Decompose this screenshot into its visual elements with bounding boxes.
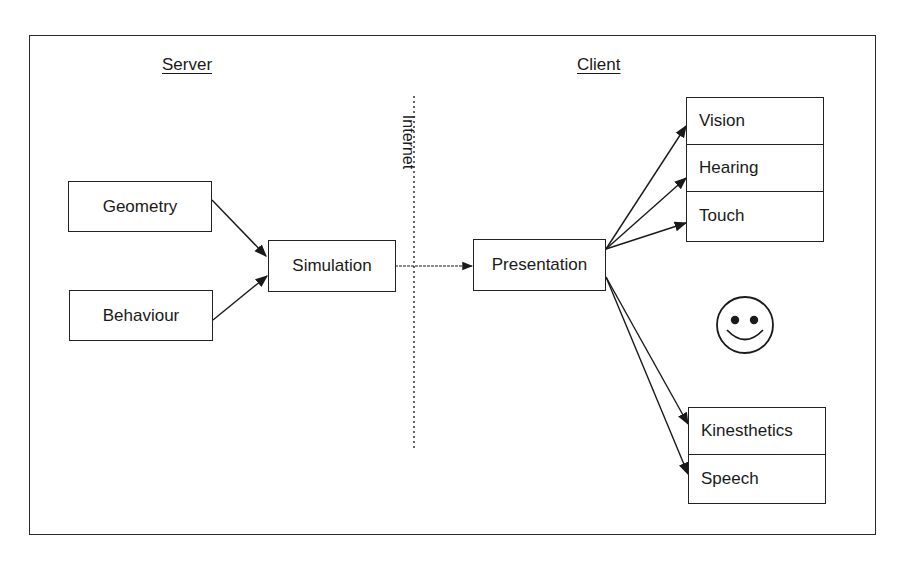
edge-behaviour-simulation	[213, 276, 267, 320]
node-simulation: Simulation	[268, 240, 396, 292]
edge-presentation-kinesthetics	[606, 277, 688, 424]
node-speech: Speech	[689, 455, 825, 502]
sense-input-group: Kinesthetics Speech	[688, 407, 826, 504]
edge-geometry-simulation	[212, 200, 266, 256]
edge-presentation-vision	[606, 126, 686, 249]
node-presentation: Presentation	[473, 239, 606, 291]
sense-output-group: Vision Hearing Touch	[686, 97, 824, 242]
node-vision: Vision	[687, 98, 823, 145]
edge-presentation-touch	[606, 223, 686, 249]
edge-presentation-speech	[606, 277, 688, 474]
node-behaviour: Behaviour	[69, 290, 213, 341]
node-touch: Touch	[687, 192, 823, 239]
node-hearing: Hearing	[687, 145, 823, 192]
node-geometry: Geometry	[68, 181, 212, 232]
smiley-face-icon	[717, 297, 773, 353]
node-kinesthetics: Kinesthetics	[689, 408, 825, 455]
